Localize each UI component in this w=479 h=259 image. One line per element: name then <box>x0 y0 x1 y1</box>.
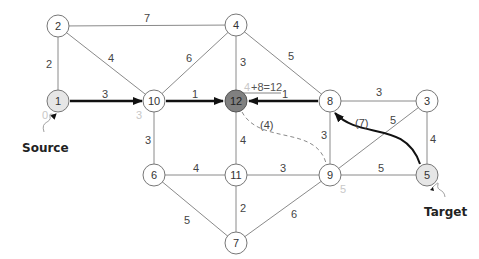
weight-2-1: 2 <box>46 58 52 70</box>
edge-6-7 <box>154 175 236 243</box>
weight-11-7: 2 <box>240 202 246 214</box>
weight-8-12: 1 <box>282 88 288 100</box>
annotation-faded: 4 <box>244 81 250 93</box>
node-8-label: 8 <box>327 95 333 107</box>
annotation-text: +8=12 <box>251 81 282 93</box>
dist-node-1: 0 <box>42 109 48 121</box>
weight-4-8: 5 <box>288 50 294 62</box>
node-3-label: 3 <box>424 95 430 107</box>
weight-9-7: 6 <box>291 208 297 220</box>
weight-10-6: 3 <box>145 134 151 146</box>
node-4-label: 4 <box>233 19 239 31</box>
weight-shortcut-5-8: (7) <box>355 117 368 129</box>
weight-8-3: 3 <box>376 86 382 98</box>
source-callout: Source <box>22 141 69 155</box>
node-10-label: 10 <box>148 95 160 107</box>
weight-6-7: 5 <box>184 214 190 226</box>
weight-9-5: 5 <box>378 162 384 174</box>
weight-2-10: 4 <box>108 52 114 64</box>
weight-12-11: 4 <box>240 134 246 146</box>
weight-10-12: 1 <box>192 88 198 100</box>
dist-node-9: 5 <box>340 183 346 195</box>
edge-2-4 <box>58 25 236 26</box>
node-11-label: 11 <box>230 169 241 181</box>
weight-11-9: 3 <box>280 162 286 174</box>
weight-1-10: 3 <box>102 88 108 100</box>
weight-2-4: 7 <box>144 12 150 24</box>
node-12-label: 12 <box>230 95 242 107</box>
weight-10-4: 6 <box>186 52 192 64</box>
edge-weights: 7 2 4 3 6 1 3 5 1 3 3 5 4 3 4 4 3 5 5 2 … <box>46 12 436 226</box>
graph-diagram: 7 2 4 3 6 1 3 5 1 3 3 5 4 3 4 4 3 5 5 2 … <box>0 0 479 259</box>
target-pointer <box>432 183 445 197</box>
distance-annotation: 4 +8=12 <box>243 81 282 93</box>
weight-6-11: 4 <box>193 162 199 174</box>
node-7-label: 7 <box>233 237 239 249</box>
node-6-label: 6 <box>151 169 157 181</box>
weight-shortcut-12-9: (4) <box>260 119 273 131</box>
node-1-label: 1 <box>55 95 61 107</box>
shortcut-edge-12-9 <box>242 112 326 163</box>
node-5-label: 5 <box>424 169 430 181</box>
node-9-label: 9 <box>327 169 333 181</box>
target-callout: Target <box>424 205 467 219</box>
weight-9-3: 5 <box>390 114 396 126</box>
edge-9-7 <box>236 175 330 243</box>
node-2-label: 2 <box>55 20 61 32</box>
weight-8-9: 3 <box>321 129 327 141</box>
weight-4-12: 3 <box>240 56 246 68</box>
weight-3-5: 4 <box>430 133 436 145</box>
dist-node-10: 3 <box>136 109 142 121</box>
